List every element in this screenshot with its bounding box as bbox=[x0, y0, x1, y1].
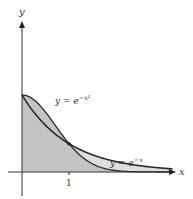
intersection-point bbox=[67, 142, 71, 146]
y-axis-label: y bbox=[18, 6, 25, 17]
x-tick-label-1: 1 bbox=[66, 178, 72, 188]
x-axis-label: x bbox=[179, 166, 185, 177]
label-exp-prefix: y = e bbox=[109, 158, 134, 168]
y-axis-arrow-icon bbox=[19, 21, 25, 28]
label-gauss: y = e−x² bbox=[54, 94, 91, 106]
label-gauss-exponent: −x² bbox=[79, 94, 91, 102]
label-exp-exponent: −x bbox=[134, 156, 143, 164]
label-gauss-prefix: y = e bbox=[54, 96, 79, 106]
figure-canvas: y x 1 y = e−x² y = e−x bbox=[0, 0, 193, 199]
